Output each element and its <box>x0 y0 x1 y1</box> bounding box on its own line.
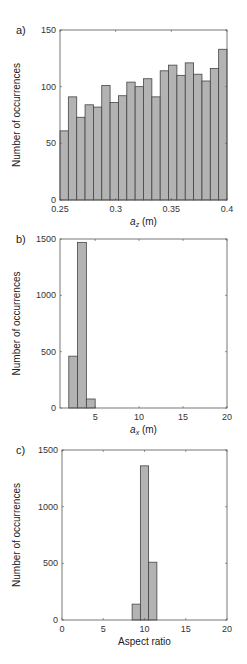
histogram-figure: 0501001500.250.30.350.4az (m)Number of o… <box>0 0 247 664</box>
x-tick-label: 0 <box>59 624 64 634</box>
y-tick-label: 0 <box>53 615 58 625</box>
histogram-bar <box>185 63 193 200</box>
histogram-bar <box>69 356 78 408</box>
y-tick-label: 1500 <box>38 445 58 455</box>
x-tick-label: 5 <box>93 412 98 422</box>
histogram-bar <box>85 105 93 200</box>
histogram-bar <box>194 74 202 200</box>
y-axis-label: Number of occurrences <box>11 483 22 587</box>
y-tick-label: 500 <box>43 558 58 568</box>
x-tick-label: 20 <box>222 412 232 422</box>
histogram-bar <box>140 466 148 620</box>
x-tick-label: 5 <box>101 624 106 634</box>
y-axis-label: Number of occurrences <box>11 63 22 167</box>
histogram-bar <box>132 604 140 620</box>
histogram-bar <box>144 79 152 200</box>
histogram-bar <box>93 107 101 200</box>
histogram-bar <box>127 82 135 200</box>
y-tick-label: 150 <box>41 25 56 35</box>
histogram-bar <box>160 71 168 200</box>
y-tick-label: 1500 <box>36 234 56 244</box>
x-tick-label: 20 <box>222 624 232 634</box>
histogram-bar <box>78 242 87 408</box>
panel-label: b) <box>16 233 26 245</box>
y-tick-label: 100 <box>41 82 56 92</box>
y-tick-label: 50 <box>46 138 56 148</box>
histogram-bar <box>202 81 210 200</box>
y-axis-label: Number of occurrences <box>11 272 22 376</box>
histogram-bar <box>86 399 95 408</box>
histogram-bar <box>177 75 185 200</box>
y-tick-label: 1000 <box>36 290 56 300</box>
histogram-bar <box>135 87 143 200</box>
panel-label: c) <box>16 444 25 456</box>
histogram-panel-b: 0500100015005101520ax (m)Number of occur… <box>11 233 232 436</box>
x-tick-label: 10 <box>134 412 144 422</box>
y-tick-label: 0 <box>51 403 56 413</box>
histogram-bar <box>68 97 76 200</box>
y-tick-label: 500 <box>41 347 56 357</box>
histogram-bar <box>118 96 126 200</box>
y-tick-label: 1000 <box>38 502 58 512</box>
x-tick-label: 0.4 <box>221 204 234 214</box>
histogram-bar <box>77 117 85 200</box>
histogram-bar <box>152 97 160 200</box>
histogram-bar <box>102 86 110 200</box>
x-tick-label: 0.35 <box>163 204 181 214</box>
panel-label: a) <box>16 24 26 36</box>
histogram-bar <box>169 65 177 200</box>
x-tick-label: 15 <box>181 624 191 634</box>
histogram-bar <box>149 562 157 620</box>
x-axis-label: Aspect ratio <box>118 636 171 647</box>
x-tick-label: 15 <box>178 412 188 422</box>
x-axis-label: ax (m) <box>130 424 157 436</box>
x-axis-label: az (m) <box>130 216 157 228</box>
x-tick-label: 10 <box>139 624 149 634</box>
x-tick-label: 0.25 <box>51 204 69 214</box>
histogram-bar <box>210 69 218 200</box>
histogram-bar <box>219 49 227 200</box>
histogram-bar <box>110 103 118 200</box>
x-tick-label: 0.3 <box>109 204 122 214</box>
histogram-panel-c: 05001000150005101520Aspect ratioNumber o… <box>11 444 232 647</box>
histogram-bar <box>60 131 68 200</box>
histogram-panel-a: 0501001500.250.30.350.4az (m)Number of o… <box>11 24 233 228</box>
